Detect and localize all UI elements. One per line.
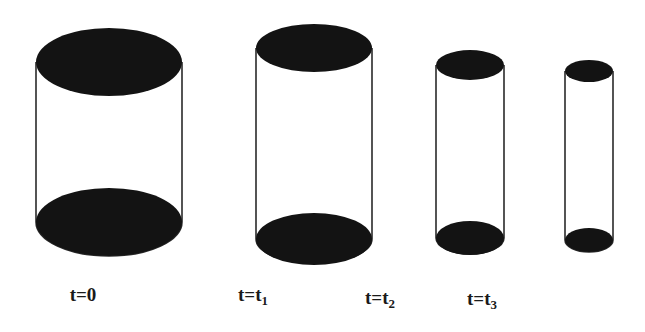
cylinder-3-top-face bbox=[436, 50, 504, 80]
cylinder-4-body bbox=[565, 71, 613, 252]
cylinder-4-label: t=t3 bbox=[467, 289, 497, 312]
cylinder-1-bottom-face bbox=[36, 188, 182, 256]
cylinder-1-label-value: 0 bbox=[87, 284, 97, 305]
cylinder-4-label-prefix: t= bbox=[467, 288, 484, 309]
cylinder-3-label: t=t2 bbox=[365, 288, 395, 311]
cylinder-3-label-subscript: 2 bbox=[389, 296, 395, 311]
cylinder-4-bottom-face bbox=[565, 228, 613, 252]
cylinder-3 bbox=[436, 50, 504, 255]
cylinder-3-label-prefix: t= bbox=[365, 287, 382, 308]
cylinder-4-label-subscript: 3 bbox=[491, 297, 497, 312]
cylinder-1-label: t=0 bbox=[70, 285, 97, 304]
cylinder-4-top-face bbox=[565, 60, 613, 82]
cylinder-2-label-prefix: t= bbox=[238, 284, 255, 305]
cylinder-2-label: t=t1 bbox=[238, 285, 268, 308]
cylinder-2 bbox=[256, 24, 372, 265]
cylinder-1 bbox=[36, 28, 182, 256]
cylinder-2-top-face bbox=[256, 24, 372, 72]
cylinder-1-label-prefix: t= bbox=[70, 284, 87, 305]
cylinder-4 bbox=[565, 60, 613, 252]
cylinder-1-top-face bbox=[36, 28, 182, 96]
cylinder-2-bottom-face bbox=[256, 213, 372, 265]
cylinder-diagram bbox=[0, 0, 645, 332]
cylinder-3-bottom-face bbox=[436, 221, 504, 255]
figure-canvas: t=0 t=t1 t=t2 t=t3 bbox=[0, 0, 645, 332]
cylinder-2-label-subscript: 1 bbox=[262, 293, 268, 308]
